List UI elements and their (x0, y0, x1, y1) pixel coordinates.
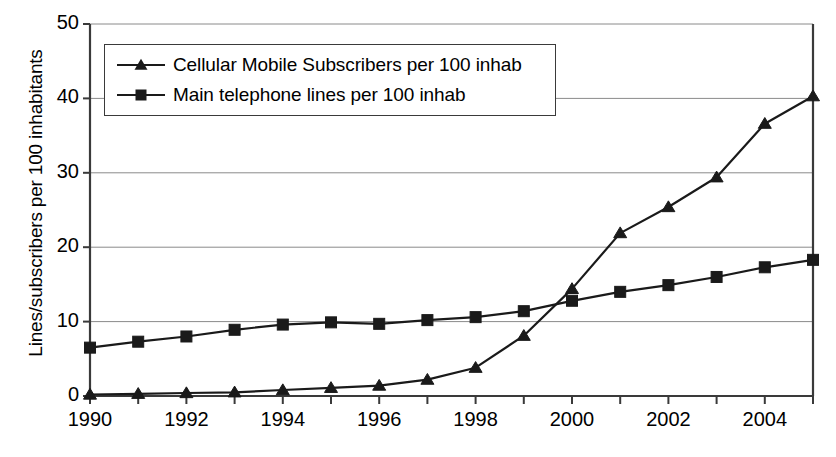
x-axis-tick-label: 1994 (253, 408, 313, 431)
x-axis-tick-label: 2002 (638, 408, 698, 431)
data-point-marker (181, 331, 192, 342)
chart-legend: Cellular Mobile Subscribers per 100 inha… (104, 44, 556, 116)
data-point-marker (133, 336, 144, 347)
chart-figure: Lines/subscribers per 100 inhabitants 01… (0, 0, 836, 457)
legend-square-marker-icon (115, 83, 167, 107)
data-point-marker (470, 312, 481, 323)
data-point-marker (422, 315, 433, 326)
y-axis-tick-label: 50 (35, 11, 79, 34)
series-line-2 (90, 260, 813, 348)
data-point-marker (615, 286, 626, 297)
data-point-marker (663, 280, 674, 291)
y-axis-tick-label: 40 (35, 85, 79, 108)
data-point-marker (758, 118, 771, 129)
y-axis-tick-label: 10 (35, 309, 79, 332)
legend-item-2: Main telephone lines per 100 inhab (105, 80, 555, 110)
data-point-marker (85, 342, 96, 353)
x-axis-tick-label: 1996 (349, 408, 409, 431)
y-axis-tick-label: 30 (35, 160, 79, 183)
data-point-marker (614, 227, 627, 238)
data-point-marker (277, 319, 288, 330)
data-point-marker (807, 90, 820, 101)
data-point-marker (229, 324, 240, 335)
y-axis-tick-label: 20 (35, 234, 79, 257)
legend-item-1: Cellular Mobile Subscribers per 100 inha… (105, 50, 555, 80)
x-axis-tick-label: 2004 (735, 408, 795, 431)
data-point-marker (759, 262, 770, 273)
data-point-marker (808, 254, 819, 265)
y-axis-tick-label: 0 (35, 383, 79, 406)
legend-triangle-marker-icon (115, 53, 167, 77)
data-point-marker (567, 295, 578, 306)
legend-item-label: Main telephone lines per 100 inhab (173, 84, 465, 106)
x-axis-tick-label: 1990 (60, 408, 120, 431)
series-line-1 (90, 96, 813, 394)
data-point-marker (662, 201, 675, 212)
x-axis-tick-label: 1998 (446, 408, 506, 431)
data-point-marker (469, 362, 482, 373)
y-axis-title: Lines/subscribers per 100 inhabitants (25, 3, 47, 403)
data-point-marker (518, 306, 529, 317)
legend-item-label: Cellular Mobile Subscribers per 100 inha… (173, 54, 522, 76)
x-axis-tick-label: 2000 (542, 408, 602, 431)
data-point-marker (326, 317, 337, 328)
x-axis-tick-label: 1992 (156, 408, 216, 431)
data-point-marker (374, 318, 385, 329)
data-point-marker (711, 271, 722, 282)
